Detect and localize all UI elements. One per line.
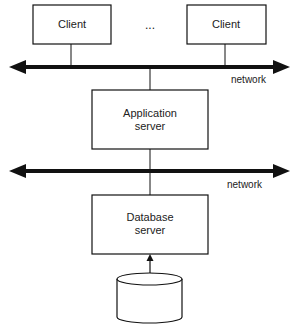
client-node-2: Client: [187, 5, 266, 67]
db-server-label-line1: Database: [126, 211, 173, 223]
database-server-node: Database server: [92, 195, 208, 254]
database-storage-cylinder-icon: [117, 273, 182, 323]
more-clients-ellipsis: ...: [145, 18, 155, 32]
arrow-right-icon: [273, 164, 290, 178]
arrow-left-icon: [9, 60, 26, 74]
application-server-node: Application server: [92, 90, 208, 149]
app-server-label-line1: Application: [123, 107, 177, 119]
network-label-2: network: [227, 179, 263, 190]
client-label-1: Client: [58, 18, 86, 30]
arrow-up-icon: [147, 254, 154, 261]
db-server-label-line2: server: [135, 224, 166, 236]
architecture-diagram: Client ... Client network Application se…: [0, 0, 295, 333]
app-server-label-line2: server: [135, 120, 166, 132]
arrow-right-icon: [273, 60, 290, 74]
arrow-left-icon: [9, 164, 26, 178]
network-label-1: network: [231, 74, 267, 85]
client-node-1: Client: [33, 5, 111, 67]
client-label-2: Client: [212, 18, 240, 30]
